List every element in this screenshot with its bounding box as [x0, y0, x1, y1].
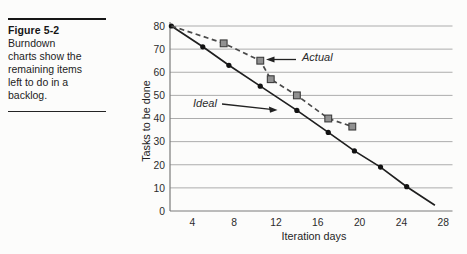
- actual-point-marker: [293, 92, 300, 99]
- actual-point-marker: [257, 57, 264, 64]
- ideal-annotation-label: Ideal: [193, 97, 217, 109]
- x-tick-label: 4: [189, 217, 195, 228]
- y-tick-label: 50: [154, 90, 166, 101]
- x-tick-label: 28: [438, 217, 450, 228]
- ideal-point-marker: [326, 130, 331, 135]
- ideal-annotation-arrowhead: [269, 107, 278, 113]
- x-tick-label: 16: [312, 217, 324, 228]
- y-axis-title: Tasks to be done: [140, 80, 152, 162]
- ideal-point-marker: [258, 84, 263, 89]
- x-tick-label: 8: [231, 217, 237, 228]
- y-tick-label: 10: [154, 183, 166, 194]
- ideal-point-marker: [352, 148, 357, 153]
- actual-point-marker: [325, 115, 332, 122]
- y-tick-labels: 01020304050607080: [154, 21, 166, 217]
- actual-point-marker: [220, 40, 227, 47]
- actual-line: [171, 26, 352, 127]
- y-tick-label: 30: [154, 136, 166, 147]
- y-tick-label: 20: [154, 160, 166, 171]
- x-tick-label: 24: [396, 217, 408, 228]
- y-tick-label: 40: [154, 113, 166, 124]
- y-tick-label: 80: [154, 21, 166, 32]
- ideal-point-marker: [378, 164, 383, 169]
- x-axis-title: Iteration days: [282, 230, 347, 242]
- ideal-point-marker: [294, 108, 299, 113]
- burndown-chart: 01020304050607080 481216202428 Actual Id…: [0, 0, 467, 254]
- actual-point-marker: [267, 76, 274, 83]
- book-figure-burndown: Figure 5-2 Burndown charts show the rema…: [0, 0, 467, 254]
- x-tick-labels: 481216202428: [189, 217, 449, 228]
- ideal-annotation-arrow: [222, 104, 271, 109]
- y-tick-label: 0: [159, 206, 165, 217]
- actual-annotation-arrowhead: [266, 56, 275, 62]
- actual-annotation-label: Actual: [301, 51, 333, 63]
- ideal-point-marker: [200, 44, 205, 49]
- x-tick-label: 20: [354, 217, 366, 228]
- y-tick-label: 70: [154, 44, 166, 55]
- ideal-point-marker: [404, 184, 409, 189]
- ideal-point-marker: [226, 63, 231, 68]
- actual-point-marker: [349, 123, 356, 130]
- y-tick-label: 60: [154, 67, 166, 78]
- x-tick-label: 12: [270, 217, 282, 228]
